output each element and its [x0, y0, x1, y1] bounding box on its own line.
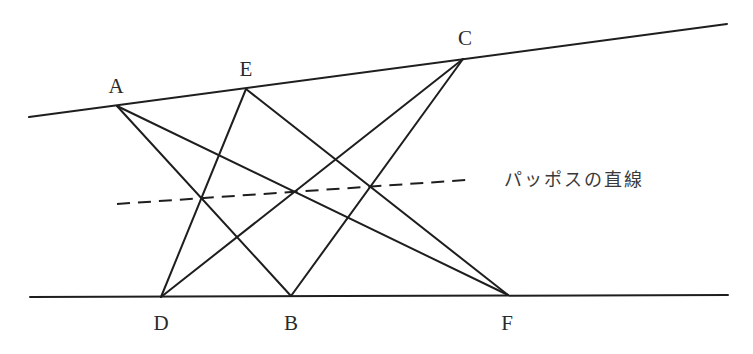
label-d: D	[153, 311, 168, 335]
label-b: B	[284, 311, 298, 335]
label-f: F	[501, 311, 513, 335]
label-a: A	[108, 74, 124, 98]
segment-e-d	[161, 89, 246, 297]
pappus-line-caption: パッポスの直線	[504, 169, 644, 190]
lower-line	[30, 295, 728, 297]
label-e: E	[240, 57, 253, 81]
label-c: C	[458, 26, 472, 50]
pappus-diagram: A E C D B F パッポスの直線	[0, 0, 753, 354]
pappus-line	[117, 180, 466, 204]
segment-c-d	[161, 59, 463, 297]
segment-a-b	[117, 106, 291, 296]
upper-line	[29, 24, 727, 117]
